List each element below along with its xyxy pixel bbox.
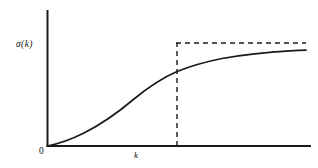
figure-container: σ(k) k 0 xyxy=(0,0,318,168)
x-axis-label: k xyxy=(134,151,138,160)
origin-label: 0 xyxy=(39,147,44,157)
plot-area xyxy=(0,0,318,168)
y-axis-label: σ(k) xyxy=(16,40,33,50)
